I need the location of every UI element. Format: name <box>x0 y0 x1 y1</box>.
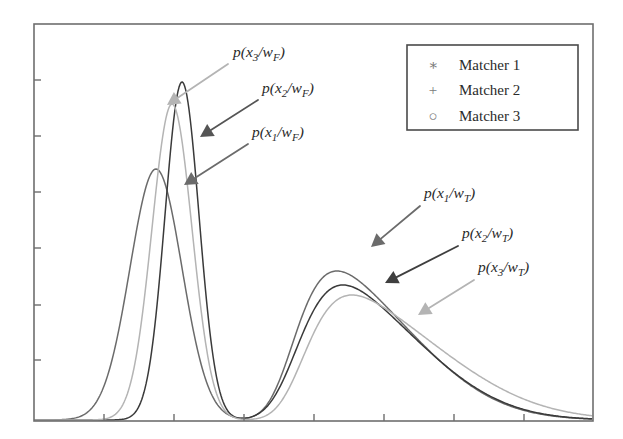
legend-label[interactable]: Matcher 2 <box>459 82 520 98</box>
circle-marker: ○ <box>428 108 437 124</box>
figure-container: p(x3/wF)p(x2/wF)p(x1/wF)p(x1/wT)p(x2/wT)… <box>0 0 623 439</box>
asterisk-marker: ∗ <box>428 57 438 73</box>
density-plot-chart: p(x3/wF)p(x2/wF)p(x1/wF)p(x1/wT)p(x2/wT)… <box>0 0 623 439</box>
legend-label[interactable]: Matcher 1 <box>459 57 520 73</box>
legend-label[interactable]: Matcher 3 <box>459 108 520 124</box>
plus-marker: + <box>429 82 437 98</box>
chart-legend[interactable]: ∗Matcher 1+Matcher 2○Matcher 3 <box>407 45 578 130</box>
